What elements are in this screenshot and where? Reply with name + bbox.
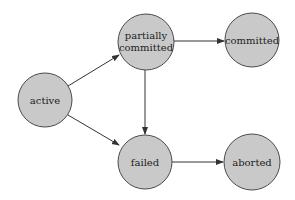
node-label: committed — [119, 42, 174, 53]
state-diagram: active partially committed committed fai… — [0, 0, 295, 200]
node-label: partially — [125, 30, 168, 41]
node-active: active — [18, 73, 72, 127]
node-label: aborted — [232, 157, 272, 168]
node-label: active — [30, 95, 60, 106]
node-aborted: aborted — [224, 134, 280, 190]
node-label: committed — [225, 35, 280, 46]
node-failed: failed — [118, 135, 172, 189]
node-partially-committed: partially committed — [118, 14, 174, 70]
edge-active-to-failed — [68, 115, 119, 145]
node-label: failed — [131, 157, 160, 168]
edge-active-to-partially-committed — [68, 55, 119, 86]
node-committed: committed — [225, 13, 280, 67]
